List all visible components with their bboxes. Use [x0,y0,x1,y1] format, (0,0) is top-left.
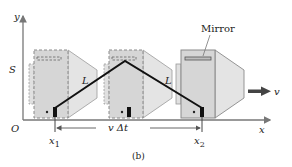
x-axis-label: x [259,124,265,135]
detector [53,107,57,117]
source-dot [46,111,48,113]
height-label: S [9,64,16,75]
side-panel [104,64,109,104]
mirror [185,57,211,60]
velocity-arrow [248,87,271,97]
camera-3-solid [176,50,244,118]
velocity-label: v [274,86,280,97]
path-length-label-right: L [164,75,172,86]
figure-caption: (b) [132,151,145,161]
mirror-label: Mirror [201,23,235,34]
source-dot [121,111,123,113]
detector [127,107,131,117]
origin-label: O [11,123,19,134]
displacement-label: v Δt [108,122,129,133]
path-length-label-left: L [81,75,89,86]
side-panel [29,64,34,104]
y-axis-label: y [13,11,20,22]
source-dot [193,111,195,113]
light-clock-diagram: y S O x x1 x2 v Δt Mirror L L v (b) [0,0,292,167]
side-panel [176,64,181,104]
x2-label: x2 [194,135,205,149]
x2-subscript: 2 [200,140,205,149]
detector [200,107,204,117]
x1-label: x1 [49,135,60,149]
lens-housing [215,50,244,118]
x1-subscript: 1 [55,140,60,149]
